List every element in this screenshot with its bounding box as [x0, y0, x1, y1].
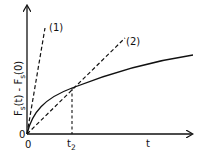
diagram-canvas: (1) (2) 0 0 t2 t Fs(t) - Fs(0) — [0, 0, 205, 156]
origin-x-label: 0 — [25, 139, 31, 150]
dashed-line-1 — [27, 28, 45, 134]
x-axis-label: t — [146, 138, 150, 149]
y-axis-label: Fs(t) - Fs(0) — [13, 61, 27, 116]
response-curve — [27, 55, 193, 134]
t2-tick-label: t2 — [67, 138, 76, 152]
line2-label: (2) — [126, 36, 140, 47]
line1-label: (1) — [49, 22, 63, 33]
